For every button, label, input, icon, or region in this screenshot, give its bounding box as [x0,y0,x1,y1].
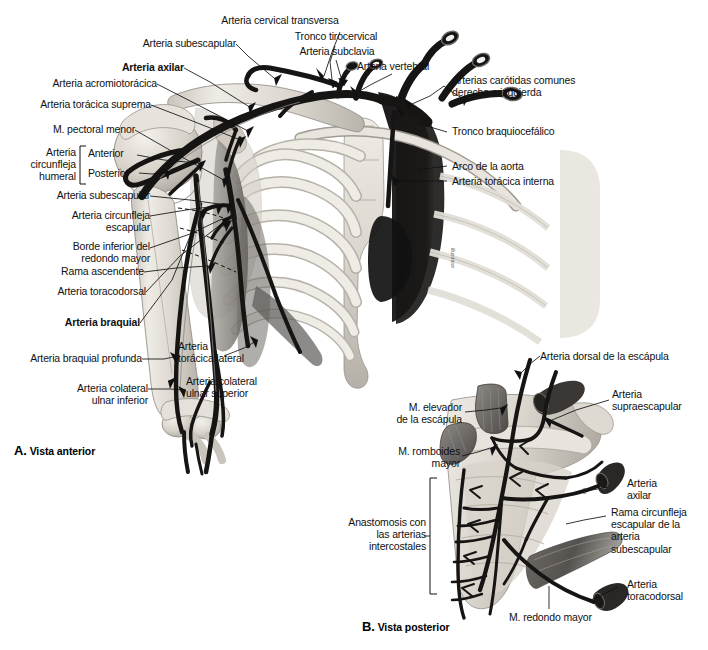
panel-b-artwork: k.u [440,360,628,618]
label-arteria-subescapular-superior: Arteria subescapular [86,37,236,49]
label-arteria-subescapular-inferior: Arteria subescapular [0,189,150,201]
label-arteria-supraescapular: Arteria supraescapular [612,388,708,412]
label-rama-circunfleja-escapular: Rama circunfleja escapular de la arteria… [611,506,708,555]
label-arteria-acromiotoracica: Arteria acromiotorácica [7,77,157,89]
label-posterior: Posterior [88,167,150,179]
label-tronco-braquiocefalico: Tronco braquiocefálico [452,125,632,137]
label-rama-ascendente: Rama ascendente [0,265,144,277]
label-tronco-tirocervical: Tronco tirocervical [266,30,406,42]
label-arteria-vertebral: Arteria vertebral [328,60,458,72]
label-arteria-subclavia: Arteria subclavia [272,45,402,57]
label-arco-de-la-aorta: Arco de la aorta [452,160,612,172]
label-arteria-toracodorsal-b: Arteria toracodorsal [627,578,707,602]
label-arteria-colateral-ulnar-inferior: Arteria colateral ulnar inferior [0,382,148,406]
panel-b-letter: B. [362,619,375,634]
panel-b-title: B. Vista posterior [362,619,449,634]
label-arteria-braquial-profunda: Arteria braquial profunda [0,352,142,364]
label-arteria-axilar: Arteria axilar [64,61,184,73]
label-anastomosis-arterias-intercostales: Anastomosis con las arterias intercostal… [328,516,426,553]
panel-a-letter: A. [14,443,27,458]
label-arteria-colateral-ulnar-superior: Arteria colateral ulnar superior [186,375,306,399]
svg-text:illustrator: illustrator [450,248,456,269]
label-arteria-toracodorsal: Arteria toracodorsal [0,285,146,297]
label-arteria-circunfleja-escapular: Arteria circunfleja escapular [0,209,150,233]
label-arteria-dorsal-de-la-escapula: Arteria dorsal de la escápula [540,350,708,362]
label-m-redondo-mayor: M. redondo mayor [509,611,639,623]
label-m-elevador-de-la-escapula: M. elevador de la escápula [352,401,462,425]
label-m-pectoral-menor: M. pectoral menor [24,123,135,135]
panel-a-title-text: Vista anterior [27,445,95,457]
label-borde-inferior-redondo-mayor: Borde inferior del redondo mayor [0,240,150,264]
label-arteria-toracica-suprema: Arteria torácica suprema [4,98,151,110]
label-arterias-carotidas-comunes: Arterias carótidas comunes derecha e izq… [452,74,662,98]
anatomy-plate: illustrator [0,0,708,650]
label-arteria-circunfleja-humeral: Arteria circunfleja humeral [6,146,76,183]
panel-a-title: A. Vista anterior [14,443,95,458]
label-arteria-axilar-b: Arteria axilar [627,477,707,501]
label-arteria-toracica-lateral: Arteria torácica lateral [178,340,288,364]
panel-b-title-text: Vista posterior [375,621,450,633]
label-arteria-toracica-interna: Arteria torácica interna [452,175,632,187]
label-arteria-cervical-transversa: Arteria cervical transversa [200,14,360,26]
label-m-romboides-mayor: M. romboides mayor [352,445,460,469]
label-anterior: Anterior [88,147,148,159]
label-arteria-braquial: Arteria braquial [0,316,140,328]
